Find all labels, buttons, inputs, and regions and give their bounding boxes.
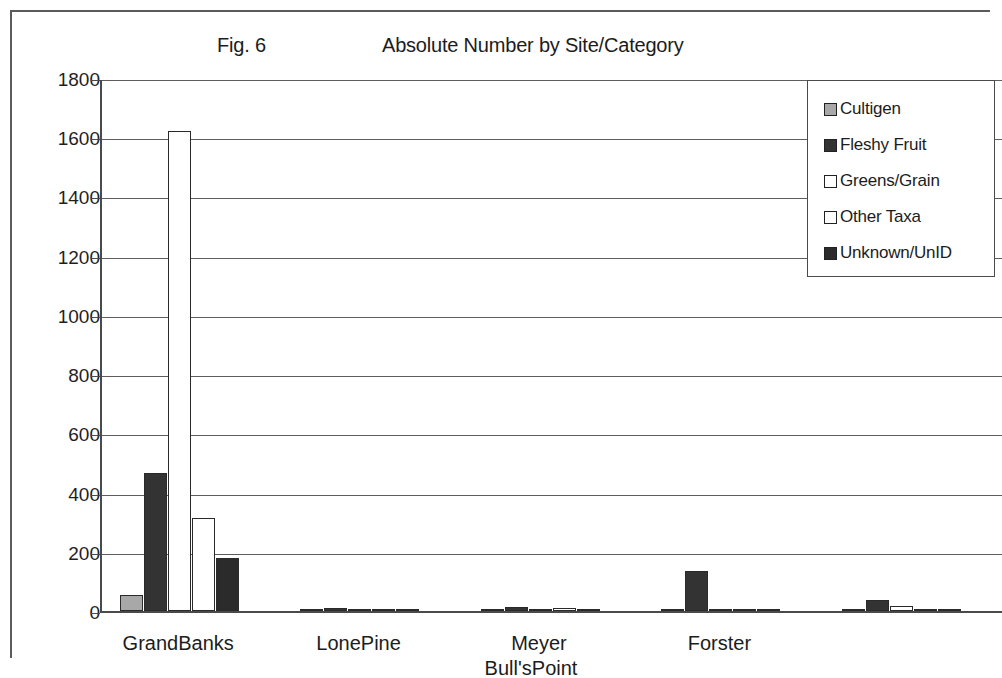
y-tick-mark xyxy=(91,495,100,496)
legend-item: Other Taxa xyxy=(824,199,994,235)
bar xyxy=(914,609,937,611)
legend-label: Fleshy Fruit xyxy=(840,135,926,155)
bar xyxy=(481,609,504,611)
bar xyxy=(120,595,143,611)
bar xyxy=(529,609,552,611)
bar xyxy=(348,609,371,611)
y-tick-mark xyxy=(91,435,100,436)
bar xyxy=(866,600,889,611)
x-tick-label: Bull'sPoint xyxy=(485,657,578,678)
bar xyxy=(661,609,684,611)
legend-swatch-icon xyxy=(824,247,837,260)
bar xyxy=(216,558,239,611)
chart-legend: CultigenFleshy FruitGreens/GrainOther Ta… xyxy=(807,80,995,277)
legend-swatch-icon xyxy=(824,211,837,224)
y-tick-mark xyxy=(91,376,100,377)
y-tick-mark xyxy=(91,613,100,614)
bar xyxy=(300,609,323,611)
bar-group xyxy=(481,80,601,611)
y-tick-mark xyxy=(91,80,100,81)
bar xyxy=(168,131,191,611)
bar xyxy=(890,606,913,611)
legend-item: Unknown/UnID xyxy=(824,235,994,271)
bar xyxy=(505,607,528,611)
bar xyxy=(733,609,756,611)
bar xyxy=(709,609,732,611)
bar xyxy=(757,609,780,611)
bar-group xyxy=(120,80,240,611)
legend-label: Unknown/UnID xyxy=(840,243,952,263)
legend-item: Greens/Grain xyxy=(824,163,994,199)
y-tick-mark xyxy=(91,317,100,318)
bar xyxy=(685,571,708,611)
y-tick-mark xyxy=(91,258,100,259)
bar xyxy=(553,608,576,611)
bar xyxy=(577,609,600,611)
x-tick-label: Meyer xyxy=(511,632,567,655)
legend-label: Greens/Grain xyxy=(840,171,940,191)
legend-swatch-icon xyxy=(824,175,837,188)
bar-group xyxy=(300,80,420,611)
chart-frame: Fig. 6 Absolute Number by Site/Category … xyxy=(10,10,990,658)
chart-title: Absolute Number by Site/Category xyxy=(382,34,684,57)
bar xyxy=(396,609,419,611)
bar xyxy=(144,473,167,611)
y-tick-mark xyxy=(91,198,100,199)
bar-group xyxy=(661,80,781,611)
x-tick-label: LonePine xyxy=(316,632,401,655)
x-tick-label: GrandBanks xyxy=(123,632,234,655)
bar xyxy=(192,518,215,611)
y-tick-mark xyxy=(91,554,100,555)
y-axis: 180016001400120010008006004002000 xyxy=(12,80,100,613)
bar xyxy=(372,609,395,611)
y-tick-mark xyxy=(91,139,100,140)
legend-item: Fleshy Fruit xyxy=(824,127,994,163)
legend-swatch-icon xyxy=(824,139,837,152)
legend-label: Cultigen xyxy=(840,99,901,119)
x-tick-label: Forster xyxy=(688,632,751,655)
figure-label: Fig. 6 xyxy=(217,34,266,57)
bar xyxy=(938,609,961,611)
legend-swatch-icon xyxy=(824,103,837,116)
bar xyxy=(324,608,347,611)
legend-item: Cultigen xyxy=(824,91,994,127)
legend-label: Other Taxa xyxy=(840,207,921,227)
bar xyxy=(842,609,865,611)
